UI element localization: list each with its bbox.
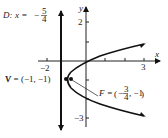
directrix-label: D:	[2, 10, 13, 20]
directrix-den: 4	[42, 14, 47, 24]
y-axis-label: y	[78, 3, 83, 13]
x-tick-neg2: −2	[40, 63, 50, 73]
focus-paren-open: (	[114, 89, 117, 99]
x-tick-3: 3	[141, 62, 146, 72]
y-axis	[86, 7, 89, 127]
vertex-label-full: V = (−1, −1)	[5, 74, 51, 84]
vertex-point	[64, 77, 68, 81]
x-axis	[38, 58, 160, 61]
focus-paren-close: )	[141, 89, 144, 99]
directrix-sign: −	[34, 10, 39, 20]
focus-leader	[72, 80, 98, 96]
y-tick-neg3: −3	[74, 113, 84, 123]
directrix-lhs: x =	[14, 10, 27, 20]
parabola-curve	[68, 44, 145, 116]
focus-x-sign: −	[118, 88, 123, 98]
x-axis-label: x	[154, 49, 159, 59]
parabola-diagram: D: x = − 5 4 y 2 −3 x −2 3 V V = (−1, −1…	[0, 0, 168, 138]
y-tick-2: 2	[78, 17, 83, 27]
focus-label-prefix: F =	[98, 88, 113, 98]
